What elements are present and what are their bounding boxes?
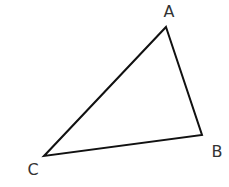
vertex-label-a: A (164, 2, 175, 21)
triangle-diagram: A B C (0, 0, 229, 187)
vertex-label-b: B (212, 142, 223, 161)
triangle-abc (44, 27, 202, 156)
vertex-label-c: C (27, 160, 38, 179)
